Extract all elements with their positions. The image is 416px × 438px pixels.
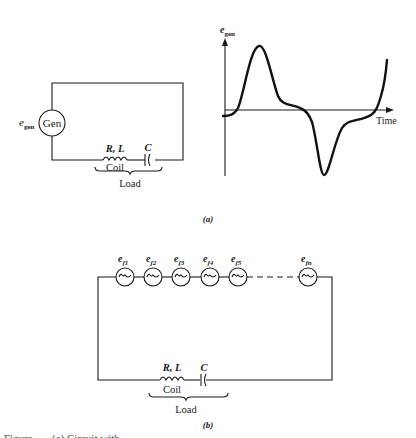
source-label: ef4 xyxy=(203,253,214,267)
caption-text: Figure . . . (a) Circuit with . . . xyxy=(0,432,416,438)
source-ef1: ef1 xyxy=(116,253,134,286)
x-axis-arrow-icon xyxy=(386,107,394,113)
inductor-coil-icon xyxy=(103,157,127,160)
source-label: efn xyxy=(301,253,312,267)
sine-icon xyxy=(175,274,187,277)
load-brace xyxy=(149,393,228,400)
ac-source-icon xyxy=(229,268,247,286)
ac-source-icon xyxy=(144,268,162,286)
source-label: ef1 xyxy=(118,253,128,267)
figure-canvas: Gen egen R, L C Coil Load egen Time (a) xyxy=(0,0,416,438)
source-ef4: ef4 xyxy=(201,253,219,286)
capacitor-plate-2 xyxy=(149,154,151,166)
circuit-a-wire-bottom-left xyxy=(52,136,103,160)
circuit-b: ef1 ef2 ef3 ef4 ef5 efn R, L xyxy=(98,253,332,415)
y-axis-label: egen xyxy=(220,24,235,38)
source-efn: efn xyxy=(299,253,317,286)
circuit-b-wire-right xyxy=(206,277,332,380)
ac-source-icon xyxy=(201,268,219,286)
circuit-b-wire-left xyxy=(98,277,160,380)
x-axis-label: Time xyxy=(376,115,397,126)
figure-caption-cropped: Figure . . . (a) Circuit with . . . xyxy=(0,432,416,438)
source-ef3: ef3 xyxy=(172,253,190,286)
source-label: ef5 xyxy=(231,253,242,267)
load-label: Load xyxy=(119,178,141,189)
ac-source-icon xyxy=(299,268,317,286)
load-label: Load xyxy=(175,404,197,415)
coil-params-label: R, L xyxy=(105,143,125,154)
sine-icon xyxy=(147,274,159,277)
source-label: ef3 xyxy=(174,253,185,267)
figure-a-label: (a) xyxy=(203,214,214,224)
capacitor-plate-2 xyxy=(205,374,207,386)
sine-icon xyxy=(302,274,314,277)
source-label: ef2 xyxy=(146,253,157,267)
ac-source-icon xyxy=(116,268,134,286)
coil-params-label: R, L xyxy=(162,362,182,373)
source-ef5: ef5 xyxy=(229,253,247,286)
sine-icon xyxy=(232,274,244,277)
capacitor-label: C xyxy=(200,362,208,373)
circuit-a: Gen egen R, L C Coil Load xyxy=(19,83,183,189)
sine-icon xyxy=(119,274,131,277)
source-ef2: ef2 xyxy=(144,253,162,286)
generator-label: Gen xyxy=(43,117,62,129)
y-axis-arrow-icon xyxy=(222,38,228,46)
ac-source-icon xyxy=(172,268,190,286)
waveform-plot: egen Time xyxy=(220,24,397,176)
capacitor-label: C xyxy=(144,142,152,153)
source-voltage-symbol: egen xyxy=(19,116,34,131)
sine-icon xyxy=(204,274,216,277)
inductor-coil-icon xyxy=(160,377,184,380)
coil-label: Coil xyxy=(163,384,181,395)
figure-b-label: (b) xyxy=(203,420,214,430)
